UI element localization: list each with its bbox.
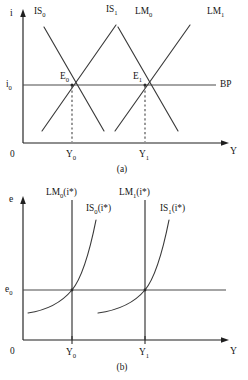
- label-is0: IS0: [34, 6, 46, 17]
- curve-lm0: [42, 25, 116, 131]
- label-e1: E1: [133, 71, 142, 82]
- label-lm0: LM0: [135, 6, 153, 17]
- intersection-point-y0-e0: [71, 289, 74, 292]
- label-bp: BP: [220, 79, 231, 89]
- equilibrium-point-e1: [144, 84, 147, 87]
- panel-b-x-axis-label: Y: [230, 345, 237, 356]
- panel-a-origin-label: 0: [10, 149, 15, 159]
- label-is0-istar: IS0(i*): [86, 203, 111, 214]
- label-lm1: LM1: [207, 6, 224, 17]
- panel-a: IS0 IS1 LM0 LM1 E0 E1 BP i Y: [6, 4, 237, 175]
- panel-b-y-tick-e0: e0: [5, 284, 13, 295]
- label-is1: IS1: [106, 4, 118, 15]
- panel-a-x-axis-label: Y: [230, 145, 237, 156]
- equilibrium-point-e0: [71, 84, 74, 87]
- label-e0: E0: [60, 71, 70, 82]
- panel-b-y-axis-label: e: [9, 193, 13, 204]
- label-is1-istar: IS1(i*): [160, 203, 185, 214]
- panel-a-y-axis-label: i: [10, 7, 13, 18]
- panel-a-x-tick-y1: Y1: [139, 149, 149, 160]
- is-lm-bp-figure: IS0 IS1 LM0 LM1 E0 E1 BP i Y: [0, 0, 248, 380]
- curve-is1-istar: [98, 220, 169, 313]
- panel-a-caption: (a): [117, 164, 127, 175]
- panel-a-x-tick-y0: Y0: [66, 149, 77, 160]
- curve-is1: [118, 27, 178, 131]
- panel-b-x-tick-y1: Y1: [139, 347, 149, 358]
- panel-b-y-axis-arrow: [20, 196, 26, 204]
- panel-a-y-axis-arrow: [20, 9, 26, 17]
- panel-b-x-tick-y0: Y0: [66, 347, 77, 358]
- panel-a-x-axis-arrow: [221, 140, 229, 146]
- panel-b: LM0(i*) LM1(i*) IS0(i*) IS1(i*) e Y e0 0: [5, 187, 237, 373]
- panel-b-x-axis-arrow: [221, 337, 229, 343]
- intersection-point-y1-e0: [144, 289, 147, 292]
- curve-is0-istar: [28, 220, 96, 313]
- panel-b-origin-label: 0: [10, 346, 15, 356]
- label-lm1-istar: LM1(i*): [119, 187, 150, 198]
- label-lm0-istar: LM0(i*): [46, 187, 77, 198]
- panel-a-y-tick-i0: i0: [6, 79, 13, 90]
- figure-root: IS0 IS1 LM0 LM1 E0 E1 BP i Y: [0, 0, 248, 380]
- panel-b-caption: (b): [117, 362, 128, 373]
